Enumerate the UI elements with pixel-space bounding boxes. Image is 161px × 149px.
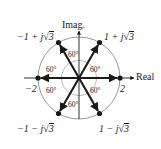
dot-point-1-minus-j-sqrt3	[97, 111, 102, 116]
dot-point-neg1-plus-j-sqrt3	[56, 40, 61, 45]
tick-label-negative-two: −2	[25, 84, 37, 94]
label-point-1-minus-j-sqrt3-radicand: 3	[124, 123, 129, 134]
dot-point-neg1-minus-j-sqrt3	[56, 111, 61, 116]
angle-label-top: 60°	[68, 51, 79, 59]
label-point-neg1-minus-j-sqrt3: −1 − j√3	[17, 123, 54, 134]
label-point-neg1-minus-j-sqrt3-radicand: 3	[49, 123, 54, 134]
angle-label-lower-right: 60°	[90, 87, 101, 95]
label-point-neg1-plus-j-sqrt3: −1 + j√3	[17, 31, 54, 42]
dot-point-1-plus-j-sqrt3	[97, 40, 102, 45]
imaginary-axis-label: Imag.	[62, 20, 85, 30]
angle-label-upper-right: 60°	[90, 66, 101, 74]
label-point-1-plus-j-sqrt3-radicand: 3	[129, 31, 134, 42]
angle-label-upper-left: 60°	[46, 66, 57, 74]
angle-label-bottom: 60°	[68, 101, 79, 109]
label-point-neg1-plus-j-sqrt3-radicand: 3	[49, 31, 54, 42]
label-point-neg1-plus-j-sqrt3-prefix: −1 + j	[17, 31, 43, 42]
angle-label-lower-left: 60°	[46, 87, 57, 95]
tick-label-positive-two: 2	[120, 84, 125, 94]
label-point-1-minus-j-sqrt3-prefix: 1 − j	[99, 123, 119, 134]
label-point-neg1-minus-j-sqrt3-prefix: −1 − j	[17, 123, 43, 134]
dot-point-2	[117, 75, 122, 80]
real-axis-label: Real	[136, 72, 154, 82]
label-point-1-minus-j-sqrt3: 1 − j√3	[99, 123, 129, 134]
label-point-1-plus-j-sqrt3-prefix: 1 + j	[104, 31, 124, 42]
dot-point-neg2	[35, 75, 40, 80]
label-point-1-plus-j-sqrt3: 1 + j√3	[104, 31, 134, 42]
